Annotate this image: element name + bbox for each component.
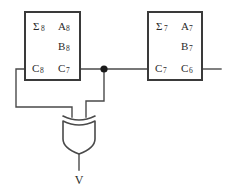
pin-sub-operand-b-8: 8: [66, 44, 70, 53]
gate-output-label: V: [75, 173, 84, 187]
pin-label-carry-in-6: C: [181, 62, 188, 74]
junction-dot: [100, 65, 107, 72]
pin-label-carry-out-7: C: [155, 62, 162, 74]
pin-sub-operand-a-8: 8: [66, 24, 70, 33]
pin-label-operand-b-7: B: [181, 40, 188, 52]
pin-sub-operand-a-7: 7: [189, 24, 193, 33]
pin-sub-carry-in-6: 6: [189, 66, 193, 75]
circuit-diagram: Σ 8 A 8 B 8 C 8 C 7 Σ 7 A 7 B 7 C 7 C 6 …: [0, 0, 225, 193]
pin-label-carry-in-7: C: [58, 62, 65, 74]
xor-gate-body[interactable]: [63, 121, 95, 154]
pin-label-carry-out-8: C: [32, 62, 39, 74]
pin-sub-carry-in-7: 7: [66, 66, 70, 75]
pin-label-operand-a-7: A: [181, 20, 189, 32]
pin-label-operand-b-8: B: [58, 40, 65, 52]
pin-sub-operand-b-7: 7: [189, 44, 193, 53]
xor-gate-outer-arc: [63, 116, 95, 120]
pin-label-sum-out-8: Σ: [33, 20, 39, 32]
pin-sub-sum-out-8: 8: [41, 24, 45, 33]
circuit-svg: Σ 8 A 8 B 8 C 8 C 7 Σ 7 A 7 B 7 C 7 C 6 …: [0, 0, 225, 193]
wire-carry-7-to-gate: [86, 69, 104, 117]
pin-sub-sum-out-7: 7: [164, 24, 168, 33]
pin-sub-carry-out-8: 8: [40, 66, 44, 75]
pin-label-sum-out-7: Σ: [156, 20, 162, 32]
pin-label-operand-a-8: A: [58, 20, 66, 32]
pin-sub-carry-out-7: 7: [163, 66, 167, 75]
